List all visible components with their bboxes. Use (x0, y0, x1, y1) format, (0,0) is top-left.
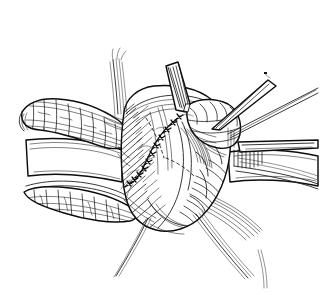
surgical-illustration-figure (0, 0, 320, 295)
illustration-canvas (0, 0, 320, 295)
